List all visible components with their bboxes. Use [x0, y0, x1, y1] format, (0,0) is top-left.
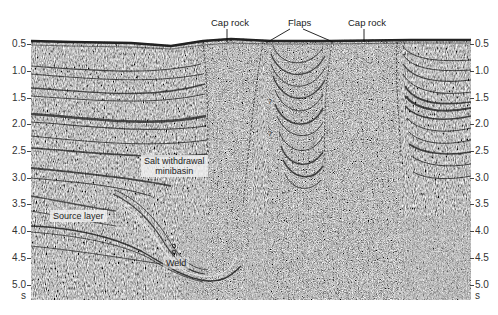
right-tick-mark [470, 98, 474, 99]
left-tick-4.0: 4.0 [6, 226, 26, 236]
left-tick-mark [27, 178, 31, 179]
svg-text:?: ? [268, 98, 272, 105]
cap-rock-left-label: Cap rock [211, 18, 249, 28]
left-tick-mark [27, 71, 31, 72]
flaps-label: Flaps [288, 18, 311, 28]
left-tick-mark [27, 44, 31, 45]
right-tick-mark [470, 151, 474, 152]
left-tick-2.5: 2.5 [6, 146, 26, 156]
right-tick-mark [470, 124, 474, 125]
left-tick-mark [27, 124, 31, 125]
right-tick-5.0: 5.0 [475, 280, 497, 290]
right-tick-2.0: 2.0 [475, 119, 497, 129]
right-tick-mark [470, 258, 474, 259]
seismic-figure: ? ? 0.5 1.0 1.5 2.0 2.5 3.0 3.5 4.0 4.5 … [0, 0, 498, 315]
right-tick-2.5: 2.5 [475, 146, 497, 156]
left-tick-1.0: 1.0 [6, 66, 26, 76]
svg-text:?: ? [268, 130, 272, 137]
left-tick-3.5: 3.5 [6, 199, 26, 209]
left-tick-mark [27, 231, 31, 232]
cap-rock-right-label: Cap rock [348, 18, 386, 28]
right-tick-mark [470, 178, 474, 179]
left-tick-mark [27, 204, 31, 205]
right-tick-4.0: 4.0 [475, 226, 497, 236]
salt-withdrawal-line1: Salt withdrawal [144, 156, 205, 166]
left-tick-mark [27, 151, 31, 152]
right-tick-mark [470, 231, 474, 232]
left-tick-mark [27, 285, 31, 286]
right-axis-unit: s [475, 291, 497, 301]
right-tick-mark [470, 285, 474, 286]
right-tick-4.5: 4.5 [475, 253, 497, 263]
right-tick-mark [470, 71, 474, 72]
right-tick-0.5: 0.5 [475, 39, 497, 49]
left-tick-4.5: 4.5 [6, 253, 26, 263]
left-tick-3.0: 3.0 [6, 173, 26, 183]
right-tick-mark [470, 204, 474, 205]
right-tick-3.5: 3.5 [475, 199, 497, 209]
left-tick-mark [27, 98, 31, 99]
left-tick-0.5: 0.5 [6, 39, 26, 49]
left-tick-5.0: 5.0 [6, 280, 26, 290]
right-tick-1.5: 1.5 [475, 93, 497, 103]
right-tick-mark [470, 44, 474, 45]
salt-withdrawal-line2: minibasin [144, 166, 205, 176]
left-tick-2.0: 2.0 [6, 119, 26, 129]
source-layer-label: Source layer [50, 210, 107, 222]
weld-label: Weld [163, 257, 189, 269]
seismic-texture: ? ? [31, 36, 471, 300]
left-axis-unit: s [6, 291, 26, 301]
left-tick-mark [27, 258, 31, 259]
right-tick-1.0: 1.0 [475, 66, 497, 76]
right-tick-3.0: 3.0 [475, 173, 497, 183]
salt-withdrawal-minibasin-label: Salt withdrawal minibasin [141, 155, 208, 177]
left-tick-1.5: 1.5 [6, 93, 26, 103]
seismic-section-image: ? ? [31, 36, 471, 300]
